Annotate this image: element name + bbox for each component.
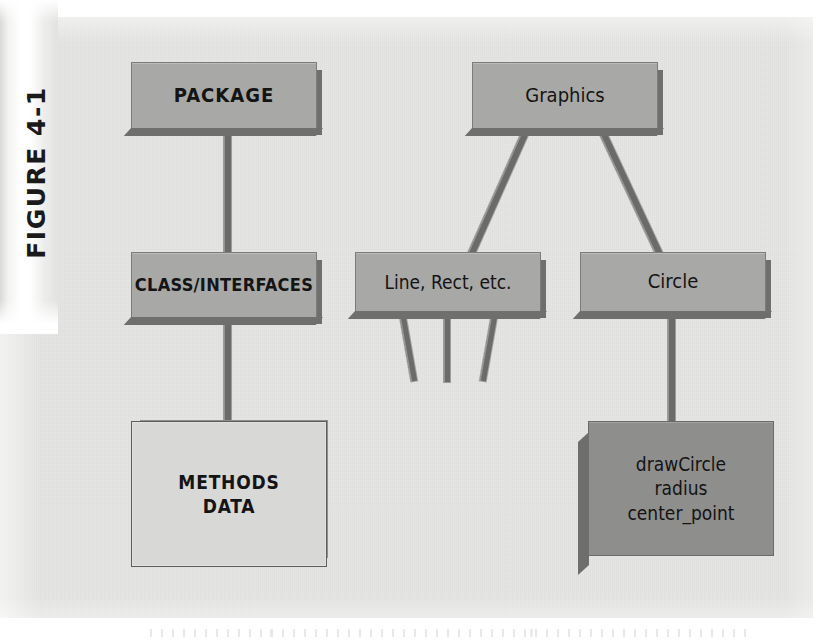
node-class-interfaces[interactable]: CLASS/INTERFACES — [131, 252, 317, 318]
gutter-top-fade — [0, 0, 58, 22]
node-class-interfaces-label: CLASS/INTERFACES — [135, 273, 313, 296]
connector-class-to-methods — [224, 318, 231, 424]
node-drawcircle-line-2: radius — [655, 476, 708, 500]
node-methods-data-line-1: METHODS — [178, 470, 279, 494]
figure-page: FIGURE 4-1 PACKAGE CLASS/INTERFACES METH… — [0, 0, 835, 641]
node-drawcircle[interactable]: drawCircle radius center_point — [588, 421, 774, 556]
page-body-text-sliver — [150, 629, 750, 637]
node-drawcircle-line-1: drawCircle — [636, 452, 726, 476]
connector-linerect-stub-center — [444, 312, 450, 382]
figure-number-label: FIGURE 4-1 — [22, 33, 51, 313]
node-circle[interactable]: Circle — [580, 252, 766, 312]
node-graphics-label: Graphics — [525, 83, 604, 109]
node-graphics[interactable]: Graphics — [472, 62, 658, 129]
node-line-rect-etc[interactable]: Line, Rect, etc. — [355, 252, 541, 312]
node-package[interactable]: PACKAGE — [131, 62, 317, 129]
node-methods-data-line-2: DATA — [203, 494, 256, 518]
node-drawcircle-line-3: center_point — [627, 501, 734, 525]
node-package-label: PACKAGE — [174, 83, 274, 109]
connector-circle-to-drawcircle — [668, 310, 675, 422]
node-circle-label: Circle — [648, 269, 699, 295]
connector-package-to-class — [224, 128, 231, 262]
node-line-rect-etc-label: Line, Rect, etc. — [384, 270, 511, 294]
node-methods-data[interactable]: METHODS DATA — [131, 421, 327, 567]
